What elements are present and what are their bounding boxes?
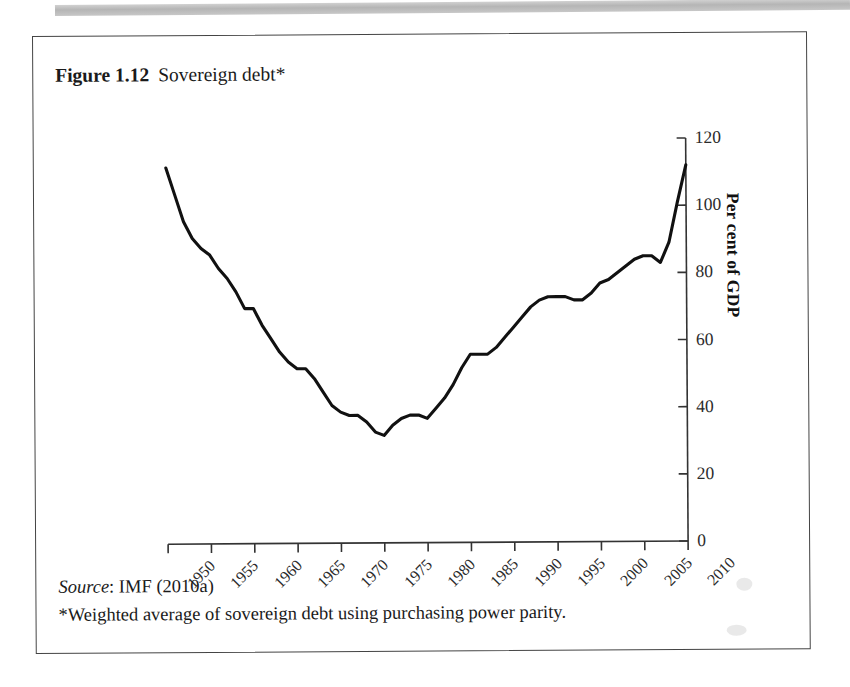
x-axis-tick-label: 1960 [270,556,305,591]
y-axis-tick-label: 120 [695,127,721,148]
scan-artifact-bar [55,0,850,16]
x-axis-tick-label: 1970 [357,556,392,591]
y-axis-tick-label: 60 [696,328,714,349]
y-axis-title: Per cent of GDP [722,193,744,318]
y-axis-tick-label: 20 [697,463,715,484]
x-axis-tick-label: 1990 [530,555,565,590]
x-axis-ticks [168,541,688,553]
source-label: Source [58,577,109,597]
chart-axes [166,138,688,544]
y-axis-tick-label: 80 [695,261,713,282]
x-axis-tick-label: 1980 [444,555,479,590]
figure-caption: Sovereign debt* [158,63,285,85]
x-axis-tick-label: 2010 [704,554,739,589]
x-axis-tick-label: 1985 [487,555,522,590]
source-text: : IMF (2010a) [109,576,214,597]
y-axis-tick-label: 100 [695,194,721,215]
x-axis-tick-label: 1975 [400,556,435,591]
scan-smudge [736,578,752,591]
sovereign-debt-line-chart [99,88,752,557]
y-axis-tick-label: 40 [696,395,714,416]
y-axis-tick-label: 0 [697,530,706,551]
scan-smudge [727,625,747,636]
x-axis-tick-label: 1965 [314,556,349,591]
figure-number: Figure 1.12 [55,64,149,86]
x-axis-tick-label: 2000 [617,554,652,589]
footnote-line: *Weighted average of sovereign debt usin… [58,602,566,626]
sovereign-debt-series-line [166,165,688,437]
x-axis-tick-label: 1995 [574,555,609,590]
x-axis-tick-label: 1955 [227,557,262,592]
figure-title: Figure 1.12Sovereign debt* [55,63,285,86]
figure-box: Figure 1.12Sovereign debt* 0204060801001… [32,31,811,654]
chart-plot-area: 020406080100120 195019551960196519701975… [99,88,752,557]
x-axis-tick-label: 2005 [660,554,695,589]
source-line: Source: IMF (2010a) [58,576,214,598]
